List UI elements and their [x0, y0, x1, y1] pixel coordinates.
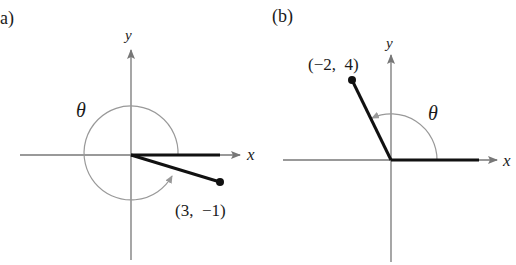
- figure-canvas: a) x y θ (3, −1) (b) x y θ (−2,: [0, 0, 516, 265]
- point-marker: [216, 178, 224, 186]
- point-label: (−2, 4): [308, 55, 359, 74]
- y-axis-label: y: [384, 35, 393, 51]
- point-label: (3, −1): [175, 201, 226, 220]
- panel-b-label: (b): [272, 6, 293, 27]
- y-axis-label: y: [123, 27, 132, 43]
- panel-a-label: a): [0, 8, 14, 29]
- terminal-side: [352, 80, 391, 160]
- x-axis-label: x: [246, 145, 255, 164]
- x-axis-label: x: [502, 151, 511, 170]
- point-marker: [348, 76, 356, 84]
- theta-label: θ: [428, 102, 438, 124]
- terminal-side: [131, 155, 220, 182]
- theta-label: θ: [76, 99, 86, 121]
- panel-b: (b) x y θ (−2, 4): [272, 6, 511, 262]
- panel-a: a) x y θ (3, −1): [0, 8, 255, 260]
